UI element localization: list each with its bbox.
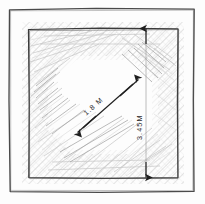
sketch-svg: 3.45M 1.8 M — [0, 0, 205, 204]
vertical-dimension-label: 3.45M — [135, 115, 144, 140]
sketch-drawing-canvas: 3.45M 1.8 M — [0, 0, 205, 204]
